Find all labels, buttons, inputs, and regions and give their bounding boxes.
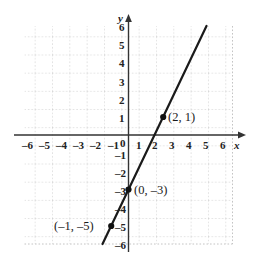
x-tick-minus2: –2	[90, 140, 101, 151]
y-tick-4: 4	[119, 58, 125, 69]
x-tick-6: 6	[220, 140, 226, 151]
x-tick-5: 5	[203, 140, 209, 151]
y-tick-minus6: –6	[115, 240, 126, 251]
y-tick-minus2: –2	[115, 168, 126, 179]
x-tick-minus6: –6	[22, 140, 33, 151]
y-tick-minus1: –1	[115, 150, 126, 161]
y-tick-1: 1	[119, 113, 125, 124]
y-tick-minus4: –4	[115, 204, 126, 215]
y-tick-minus5: –5	[115, 222, 126, 233]
point-label-neg1-neg5: (–1, –5)	[54, 220, 94, 233]
x-tick-4: 4	[186, 140, 192, 151]
point-label-0-neg3: (0, –3)	[134, 184, 167, 197]
point-marker-0-neg3	[125, 186, 131, 192]
x-tick-1: 1	[136, 140, 142, 151]
y-tick-minus3: –3	[115, 186, 126, 197]
coordinate-plane-figure: –6 –5 –4 –3 –2 –1 0 1 2 3 4 5 6 x 6 5 4 …	[0, 0, 258, 258]
point-label-2-1: (2, 1)	[168, 111, 195, 124]
x-axis-name: x	[234, 140, 240, 151]
point-marker-neg1-neg5	[108, 223, 114, 229]
y-axis-name: y	[118, 13, 123, 24]
x-tick-3: 3	[169, 140, 175, 151]
x-tick-minus5: –5	[39, 140, 50, 151]
x-tick-minus4: –4	[56, 140, 67, 151]
y-tick-2: 2	[119, 95, 125, 106]
graph-canvas	[0, 0, 258, 258]
y-tick-3: 3	[119, 77, 125, 88]
origin-label: 0	[120, 138, 126, 149]
point-marker-2-1	[160, 114, 166, 120]
y-tick-5: 5	[119, 40, 125, 51]
x-tick-2: 2	[152, 140, 158, 151]
x-tick-minus3: –3	[73, 140, 84, 151]
